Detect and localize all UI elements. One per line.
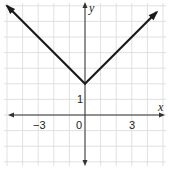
y-tick-1: 1 <box>77 93 83 105</box>
x-tick-3: 3 <box>129 119 135 131</box>
x-tick-0: 0 <box>76 119 82 131</box>
plot-line <box>6 4 159 83</box>
y-axis-label: y <box>88 1 95 15</box>
x-tick-neg3: −3 <box>33 119 46 131</box>
x-axis-label: x <box>157 100 164 114</box>
absolute-value-graph: y x −3 0 3 1 <box>0 0 170 169</box>
